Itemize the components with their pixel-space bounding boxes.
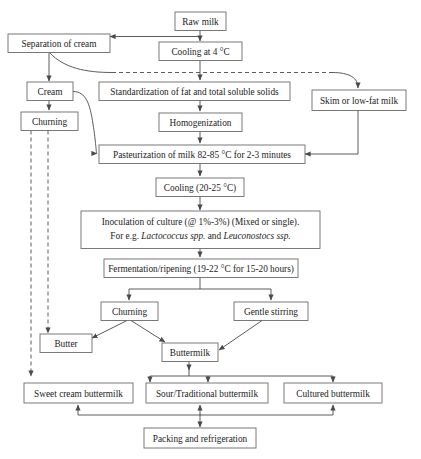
node-sour-traditional-buttermilk-label: Sour/Traditional buttermilk (156, 389, 259, 399)
node-fermentation[interactable]: Fermentation/ripening (19-22 °C for 15-2… (104, 259, 298, 278)
inoculation-species-lactococcus: Lactococcus spp. (140, 231, 205, 241)
node-butter[interactable]: Butter (40, 334, 92, 353)
node-churning-bottom-label: Churning (112, 307, 147, 317)
node-separation-of-cream[interactable]: Separation of cream (8, 34, 110, 53)
node-skim-or-low-fat-milk[interactable]: Skim or low-fat milk (312, 90, 406, 111)
flowchart-container: Raw milk Separation of cream Cooling at … (0, 0, 421, 459)
node-churning-top-label: Churning (32, 117, 67, 127)
node-gentle-stirring[interactable]: Gentle stirring (234, 302, 308, 321)
edge-skim-to-pasteurization (305, 111, 358, 155)
node-sour-traditional-buttermilk[interactable]: Sour/Traditional buttermilk (146, 383, 268, 403)
flowchart-diagram: Raw milk Separation of cream Cooling at … (0, 0, 421, 459)
node-fermentation-label: Fermentation/ripening (19-22 °C for 15-2… (108, 264, 294, 275)
node-packing-and-refrigeration-label: Packing and refrigeration (153, 434, 248, 444)
inoculation-foreg: For e.g. (110, 231, 141, 241)
edge-churning-bottom-to-buttermilk (131, 321, 165, 343)
edge-separation-curve-start (50, 53, 112, 73)
edge-gentle-stirring-to-buttermilk (219, 321, 262, 351)
node-cooling-4c[interactable]: Cooling at 4 °C (159, 42, 242, 61)
node-cooling-20-25c-label: Cooling (20-25 °C) (164, 183, 236, 194)
node-inoculation-label-line1: Inoculation of culture (@ 1%-3%) (Mixed … (102, 217, 300, 228)
node-separation-of-cream-label: Separation of cream (22, 39, 98, 49)
node-pasteurization[interactable]: Pasteurization of milk 82-85 °C for 2-3 … (99, 145, 305, 164)
node-gentle-stirring-label: Gentle stirring (244, 307, 298, 317)
node-cooling-4c-label: Cooling at 4 °C (171, 47, 229, 57)
node-inoculation[interactable]: Inoculation of culture (@ 1%-3%) (Mixed … (81, 211, 320, 249)
node-churning-top[interactable]: Churning (21, 112, 78, 131)
node-homogenization-label: Homogenization (170, 118, 232, 128)
node-churning-bottom[interactable]: Churning (101, 302, 158, 321)
node-standardization[interactable]: Standardization of fat and total soluble… (99, 82, 290, 101)
node-raw-milk-label: Raw milk (182, 17, 219, 27)
node-buttermilk[interactable]: Buttermilk (162, 343, 218, 362)
inoculation-and: and (205, 231, 223, 241)
node-pasteurization-label: Pasteurization of milk 82-85 °C for 2-3 … (113, 150, 291, 160)
node-cream-label: Cream (38, 87, 64, 97)
node-sweet-cream-buttermilk[interactable]: Sweet cream buttermilk (24, 383, 133, 403)
node-inoculation-label-line2: For e.g. Lactococcus spp. and Leuconosto… (110, 231, 290, 241)
inoculation-species-leuconostocs: Leuconostocs ssp. (222, 231, 290, 241)
edge-churning-bottom-to-butter (92, 321, 127, 339)
node-cultured-buttermilk-label: Cultured buttermilk (296, 389, 370, 399)
node-cultured-buttermilk[interactable]: Cultured buttermilk (284, 383, 382, 403)
node-packing-and-refrigeration[interactable]: Packing and refrigeration (144, 428, 256, 448)
node-standardization-label: Standardization of fat and total soluble… (110, 87, 279, 97)
node-cooling-20-25c[interactable]: Cooling (20-25 °C) (156, 178, 244, 197)
node-raw-milk[interactable]: Raw milk (175, 12, 226, 31)
node-cream[interactable]: Cream (27, 82, 73, 101)
edge-dashed-curve-to-skim (332, 73, 358, 89)
node-sweet-cream-buttermilk-label: Sweet cream buttermilk (34, 389, 123, 399)
node-skim-or-low-fat-milk-label: Skim or low-fat milk (320, 96, 399, 106)
node-buttermilk-label: Buttermilk (170, 348, 211, 358)
node-homogenization[interactable]: Homogenization (159, 113, 242, 132)
node-butter-label: Butter (54, 339, 78, 349)
